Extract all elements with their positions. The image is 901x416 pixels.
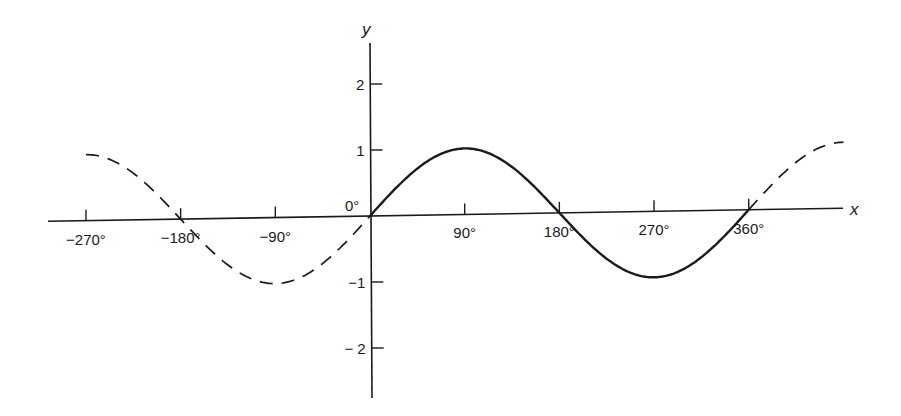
y-axis-label: y xyxy=(361,20,372,39)
y-tick-label: − 2 xyxy=(344,340,365,357)
origin-label: 0° xyxy=(345,197,359,214)
x-tick-label: −270° xyxy=(66,231,106,248)
sine-graph: x y 0° −270°−180°−90°90°180°270°360°21−1… xyxy=(0,0,901,416)
sine-plot-canvas: x y 0° −270°−180°−90°90°180°270°360°21−1… xyxy=(0,0,901,416)
y-tick-label: −1 xyxy=(348,274,365,291)
x-tick-label: 90° xyxy=(453,224,476,241)
x-axis-label: x xyxy=(849,200,859,219)
y-tick-label: 1 xyxy=(356,142,364,159)
sine-curve-dashed xyxy=(749,142,844,210)
x-tick-label: −180° xyxy=(161,229,201,246)
sine-curve-solid xyxy=(370,148,749,277)
y-axis-line xyxy=(370,43,372,398)
y-tick-label: 2 xyxy=(356,76,364,93)
axis-labels: x y 0° −270°−180°−90°90°180°270°360°21−1… xyxy=(66,20,859,357)
x-tick-label: 360° xyxy=(733,220,764,237)
axes xyxy=(48,43,843,398)
x-tick-label: −90° xyxy=(260,228,291,245)
x-axis-line xyxy=(48,208,843,221)
x-tick-label: 270° xyxy=(639,221,670,238)
x-tick-label: 180° xyxy=(544,223,575,240)
sine-curve-dashed xyxy=(86,155,370,284)
